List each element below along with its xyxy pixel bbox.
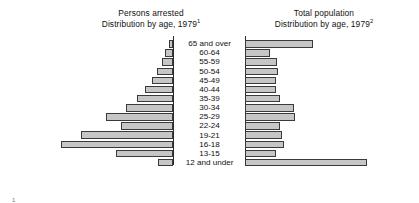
bar-population-50-54 (245, 68, 278, 76)
chart-title-left-line2-text: Distribution by age, 1979 (102, 19, 197, 29)
age-group-label: 22-24 (174, 121, 245, 131)
age-group-label: 16-18 (174, 140, 245, 150)
bar-arrested-22-24 (121, 122, 173, 130)
bar-arrested-30-34 (126, 104, 173, 112)
age-group-label: 45-49 (174, 76, 245, 86)
bar-arrested-40-44 (145, 86, 173, 94)
bar-population-13-15 (245, 150, 277, 158)
age-group-label: 35-39 (174, 94, 245, 104)
pyramid-row: 35-39 (0, 94, 419, 103)
age-group-label: 12 and under (168, 158, 251, 168)
age-group-label: 19-21 (174, 131, 245, 141)
bar-population-22-24 (245, 122, 280, 130)
bar-population-25-29 (245, 113, 295, 121)
bar-population-19-21 (245, 131, 283, 139)
bar-arrested-19-21 (81, 131, 173, 139)
age-group-label: 13-15 (174, 149, 245, 159)
footnote-marker-1: 1 (197, 18, 200, 24)
bar-population-35-39 (245, 95, 280, 103)
pyramid-row: 12 and under (0, 158, 419, 167)
age-group-label: 55-59 (174, 57, 245, 67)
bar-arrested-13-15 (116, 150, 173, 158)
pyramid-row: 19-21 (0, 131, 419, 140)
pyramid-row: 30-34 (0, 103, 419, 112)
pyramid-row: 60-64 (0, 49, 419, 58)
chart-title-left-line2: Distribution by age, 19791 (56, 19, 246, 30)
bar-population-16-18 (245, 141, 284, 149)
bar-arrested-45-49 (152, 77, 173, 85)
pyramid-row: 40-44 (0, 85, 419, 94)
plot-area: 65 and over60-6455-5950-5445-4940-4435-3… (0, 36, 419, 170)
bar-arrested-50-54 (157, 68, 172, 76)
bar-population-65-and-over (245, 40, 313, 48)
pyramid-row: 55-59 (0, 58, 419, 67)
pyramid-row: 50-54 (0, 67, 419, 76)
bar-arrested-16-18 (61, 141, 173, 149)
chart-title-left-line1: Persons arrested (56, 8, 246, 19)
bar-arrested-60-64 (165, 49, 173, 57)
bar-population-55-59 (245, 58, 278, 66)
bar-population-60-64 (245, 49, 271, 57)
population-pyramid-chart: Persons arrested Distribution by age, 19… (0, 0, 419, 203)
bar-population-40-44 (245, 86, 277, 94)
chart-title-right-line1: Total population (232, 8, 416, 19)
footnote-marker-2: 2 (370, 18, 373, 24)
chart-title-right-line2: Distribution by age, 19792 (232, 19, 416, 30)
pyramid-row: 45-49 (0, 76, 419, 85)
age-group-label: 50-54 (174, 67, 245, 77)
pyramid-row: 16-18 (0, 140, 419, 149)
bar-arrested-55-59 (162, 58, 173, 66)
chart-title-right-line2-text: Distribution by age, 1979 (275, 19, 370, 29)
bar-population-12-and-under (245, 159, 367, 167)
age-group-label: 40-44 (174, 85, 245, 95)
chart-title-left: Persons arrested Distribution by age, 19… (56, 8, 246, 30)
pyramid-row: 13-15 (0, 149, 419, 158)
pyramid-row: 22-24 (0, 122, 419, 131)
page-footnote-mark: 1 (12, 197, 15, 203)
chart-title-right: Total population Distribution by age, 19… (232, 8, 416, 30)
bar-population-45-49 (245, 77, 277, 85)
age-group-label: 30-34 (174, 103, 245, 113)
age-group-label: 60-64 (174, 48, 245, 58)
bar-population-30-34 (245, 104, 294, 112)
age-group-label: 25-29 (174, 112, 245, 122)
pyramid-row: 25-29 (0, 113, 419, 122)
bar-arrested-35-39 (137, 95, 172, 103)
bar-arrested-25-29 (106, 113, 172, 121)
